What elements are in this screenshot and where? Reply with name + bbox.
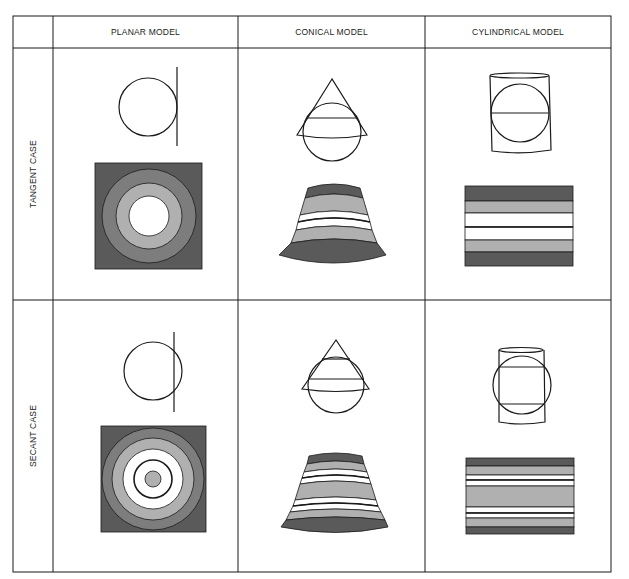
column-header-conical: CONICAL MODEL	[238, 16, 425, 48]
secant-planar-pattern	[101, 426, 206, 532]
tangent-planar-pattern	[95, 163, 202, 269]
tangent-cylindrical-schematic	[490, 73, 551, 153]
secant-cylindrical-schematic	[493, 348, 551, 425]
row-label-secant: SECANT CASE	[13, 300, 53, 572]
tangent-planar-schematic	[119, 67, 177, 146]
projection-diagram: PLANAR MODEL CONICAL MODEL CYLINDRICAL M…	[0, 0, 629, 579]
secant-cylindrical-pattern	[466, 458, 574, 534]
column-header-cylindrical: CYLINDRICAL MODEL	[425, 16, 611, 48]
tangent-cylindrical-pattern	[465, 186, 573, 266]
secant-conical-pattern	[281, 453, 388, 533]
row-label-tangent: TANGENT CASE	[13, 48, 53, 300]
tangent-conical-schematic	[297, 79, 367, 161]
tangent-conical-pattern	[279, 184, 386, 263]
row-label-tangent-text: TANGENT CASE	[28, 140, 38, 208]
secant-planar-schematic	[124, 332, 182, 412]
row-label-secant-text: SECANT CASE	[28, 405, 38, 467]
secant-conical-schematic	[302, 340, 369, 413]
column-header-planar: PLANAR MODEL	[53, 16, 238, 48]
diagram-canvas	[0, 0, 629, 579]
